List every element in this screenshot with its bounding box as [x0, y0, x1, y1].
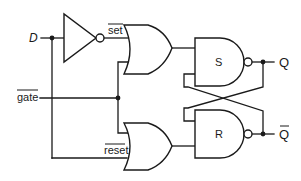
junction-qbar	[261, 132, 266, 137]
nand-r-bubble	[244, 130, 252, 138]
inverter-bubble	[96, 34, 104, 42]
label-set: set	[108, 24, 123, 36]
junction-gate	[116, 96, 121, 101]
circuit-svg: D set gate reset S R Q Q	[0, 0, 301, 181]
or-gate-reset	[124, 123, 172, 170]
label-qbar: Q	[279, 127, 289, 142]
label-d: D	[29, 31, 38, 45]
label-nand-r: R	[215, 128, 223, 140]
or-gate-set	[124, 25, 172, 74]
inverter-gate	[64, 14, 104, 62]
junction-q	[261, 60, 266, 65]
label-nand-s: S	[215, 56, 222, 68]
nand-gate-s	[195, 38, 252, 86]
junction-d	[50, 36, 55, 41]
nand-gate-r	[195, 110, 252, 158]
label-gate: gate	[17, 91, 38, 103]
label-reset: reset	[104, 144, 128, 156]
nand-s-bubble	[244, 58, 252, 66]
latch-diagram: D set gate reset S R Q Q	[0, 0, 301, 181]
label-q: Q	[279, 55, 289, 70]
